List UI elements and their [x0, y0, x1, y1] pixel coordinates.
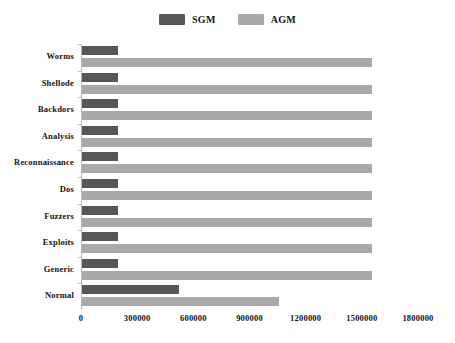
bar-sgm-dos[interactable]	[82, 179, 118, 188]
bar-sgm-normal[interactable]	[82, 285, 179, 294]
bar-agm-normal[interactable]	[82, 297, 279, 306]
y-axis-label-backdors: Backdors	[38, 105, 74, 114]
bar-agm-analysis[interactable]	[82, 138, 372, 147]
y-axis-label-analysis: Analysis	[42, 132, 74, 141]
bar-agm-worms[interactable]	[82, 58, 372, 67]
bar-sgm-reconnaissance[interactable]	[82, 152, 118, 161]
bar-agm-shellode[interactable]	[82, 85, 372, 94]
y-axis-label-fuzzers: Fuzzers	[44, 211, 74, 220]
bar-sgm-worms[interactable]	[82, 46, 118, 55]
y-axis-tick	[78, 44, 81, 45]
x-axis-tick-label: 0	[79, 314, 83, 323]
y-axis-tick	[78, 230, 81, 231]
x-axis-tick-label: 1800000	[402, 314, 433, 323]
bar-agm-backdors[interactable]	[82, 111, 372, 120]
y-axis-label-shellode: Shellode	[42, 78, 74, 87]
bar-agm-generic[interactable]	[82, 271, 372, 280]
y-axis-tick	[78, 71, 81, 72]
legend-label-sgm: SGM	[192, 15, 216, 25]
x-axis-tick-label: 1500000	[346, 314, 377, 323]
legend-swatch-sgm	[159, 14, 185, 25]
y-axis-tick	[78, 124, 81, 125]
plot-area	[81, 44, 421, 310]
y-axis-tick	[78, 177, 81, 178]
y-axis-label-exploits: Exploits	[43, 238, 74, 247]
y-axis-tick	[78, 150, 81, 151]
legend-entry-sgm[interactable]: SGM	[159, 14, 216, 25]
x-axis-tick-label: 300000	[124, 314, 151, 323]
y-axis-labels: WormsShellodeBackdorsAnalysisReconnaissa…	[0, 44, 78, 310]
y-axis-label-normal: Normal	[45, 291, 74, 300]
bar-sgm-backdors[interactable]	[82, 99, 118, 108]
y-axis-label-generic: Generic	[44, 265, 74, 274]
bar-sgm-fuzzers[interactable]	[82, 206, 118, 215]
bar-agm-exploits[interactable]	[82, 244, 372, 253]
bar-sgm-exploits[interactable]	[82, 232, 118, 241]
legend-entry-agm[interactable]: AGM	[238, 14, 296, 25]
y-axis-tick	[78, 204, 81, 205]
legend-label-agm: AGM	[271, 15, 296, 25]
y-axis-label-dos: Dos	[60, 185, 74, 194]
bar-agm-dos[interactable]	[82, 191, 372, 200]
y-axis-tick	[78, 97, 81, 98]
x-axis-tick-label: 600000	[180, 314, 207, 323]
x-axis: 0300000600000900000120000015000001800000	[81, 310, 421, 311]
y-axis-tick	[78, 283, 81, 284]
bar-agm-fuzzers[interactable]	[82, 218, 372, 227]
x-axis-tick-label: 1200000	[290, 314, 321, 323]
y-axis-label-worms: Worms	[47, 52, 74, 61]
bar-sgm-generic[interactable]	[82, 259, 118, 268]
bar-sgm-shellode[interactable]	[82, 73, 118, 82]
bar-sgm-analysis[interactable]	[82, 126, 118, 135]
bar-agm-reconnaissance[interactable]	[82, 164, 372, 173]
y-axis-tick	[78, 257, 81, 258]
legend-swatch-agm	[238, 14, 264, 25]
bar-chart: SGM AGM WormsShellodeBackdorsAnalysisRec…	[0, 0, 455, 343]
chart-legend: SGM AGM	[0, 14, 455, 25]
x-axis-tick-label: 900000	[236, 314, 263, 323]
y-axis-label-reconnaissance: Reconnaissance	[14, 158, 74, 167]
